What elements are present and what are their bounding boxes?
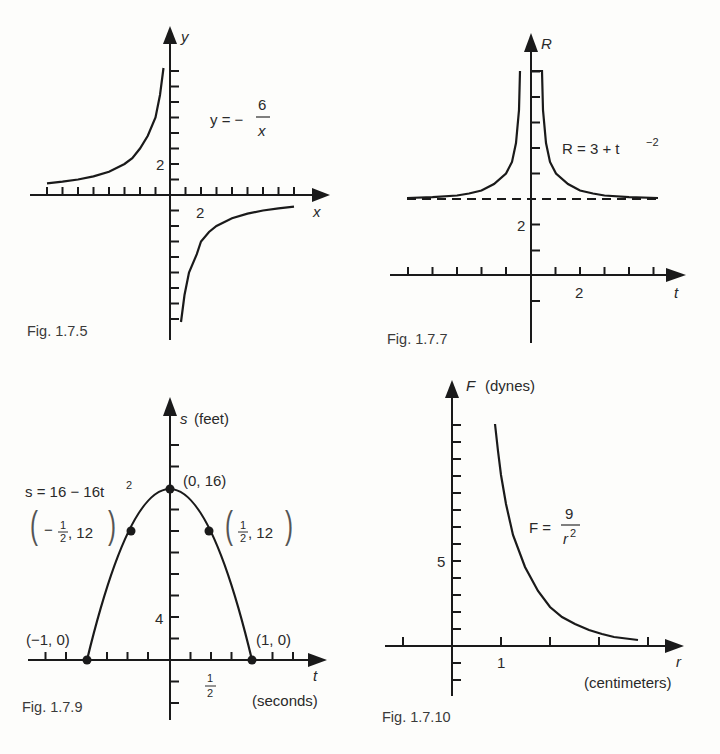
curve-branch-right	[181, 207, 294, 322]
s-axis-arrow-icon	[163, 397, 177, 416]
equation-label: s = 16 − 16t 2	[25, 479, 132, 500]
f-axis-label: F	[466, 377, 476, 394]
f-axis-unit: (dynes)	[485, 377, 535, 394]
figure-1-7-7: R t 2 2 R = 3 + t −2 Fig. 1.7.7	[387, 33, 686, 347]
svg-text:2: 2	[240, 532, 246, 544]
f-ticks	[452, 425, 461, 680]
r-axis-label: r	[676, 653, 682, 670]
figure-caption: Fig. 1.7.10	[382, 709, 451, 725]
point-neghalf-12	[127, 527, 136, 536]
svg-text:): )	[285, 503, 293, 546]
equation-numerator: 9	[565, 505, 573, 522]
t-axis-label: t	[313, 667, 318, 684]
x-axis-label: x	[312, 203, 321, 220]
svg-text:(: (	[30, 503, 38, 546]
equation-main: s = 16 − 16t	[25, 483, 105, 500]
svg-text:(: (	[225, 503, 233, 546]
svg-text:1: 1	[60, 519, 66, 531]
svg-text:2: 2	[60, 532, 66, 544]
y-axis-arrow-icon	[163, 26, 177, 44]
equation-lhs: y = −	[210, 111, 244, 128]
figure-sheet: y x 2 2 y = − 6 x Fig. 1.7.5	[0, 0, 720, 754]
point-half-12	[205, 527, 214, 536]
figure-1-7-9: s (feet) t (seconds) 4 1 2 s = 16 − 16t …	[22, 397, 327, 720]
r-axis-arrow-icon	[524, 33, 538, 52]
equation-exponent: 2	[126, 479, 132, 491]
figure-caption: Fig. 1.7.7	[387, 331, 447, 347]
curve-branch-left	[47, 68, 164, 183]
s-tick-label: 4	[155, 610, 163, 627]
r-axis-unit: (centimeters)	[584, 674, 672, 691]
svg-text:2: 2	[207, 687, 213, 699]
r-axis-arrow-icon	[665, 639, 684, 653]
figure-1-7-5: y x 2 2 y = − 6 x Fig. 1.7.5	[27, 26, 330, 340]
equation-denominator-exponent: 2	[570, 527, 576, 539]
svg-text:1: 1	[207, 672, 213, 684]
point-label-top: (0, 16)	[183, 472, 226, 489]
equation-label: y = − 6 x	[210, 96, 270, 139]
r-tick-label: 1	[497, 654, 505, 671]
equation-numerator: 6	[258, 96, 266, 113]
t-axis-unit: (seconds)	[252, 692, 318, 709]
r-tick-label: 2	[517, 217, 525, 234]
s-axis-unit: (feet)	[194, 410, 229, 427]
equation-main: R = 3 + t	[562, 140, 620, 157]
t-tick-label: 1 2	[205, 672, 216, 699]
equation-lhs: F =	[529, 519, 551, 536]
t-axis-arrow-icon	[308, 653, 327, 667]
svg-text:1: 1	[240, 519, 246, 531]
point-0-16	[166, 485, 175, 494]
svg-text:): )	[108, 503, 116, 546]
s-axis-label: s	[180, 410, 188, 427]
point-label-mid-left: ( − 1 2 , 12 )	[30, 503, 116, 546]
curve-branch-right	[532, 71, 658, 198]
f-axis-arrow-icon	[445, 380, 459, 398]
y-tick-label: 2	[156, 156, 164, 173]
equation-label: F = 9 r 2	[529, 505, 580, 547]
figure-1-7-10: F (dynes) r (centimeters) 5 1 F = 9 r 2 …	[382, 377, 684, 725]
point-neg1-0	[83, 656, 92, 665]
svg-text:, 12: , 12	[68, 524, 93, 541]
equation-exponent: −2	[646, 136, 659, 148]
point-1-0	[248, 656, 257, 665]
point-label-right: (1, 0)	[256, 631, 291, 648]
t-tick-label: 2	[575, 284, 583, 301]
y-axis-label: y	[180, 28, 190, 45]
equation-label: R = 3 + t −2	[562, 136, 659, 157]
figure-caption: Fig. 1.7.9	[22, 699, 82, 715]
t-axis-arrow-icon	[666, 268, 686, 282]
r-ticks	[531, 72, 540, 302]
point-label-left: (−1, 0)	[26, 631, 70, 648]
r-axis-label: R	[541, 35, 552, 52]
f-tick-label: 5	[437, 553, 445, 570]
r-ticks	[403, 637, 648, 646]
svg-text:−: −	[44, 521, 53, 538]
equation-denominator: x	[257, 122, 266, 139]
s-ticks	[170, 445, 179, 703]
x-tick-label: 2	[196, 204, 204, 221]
equation-denominator: r	[563, 530, 569, 547]
x-axis-arrow-icon	[312, 188, 330, 202]
t-axis-label: t	[674, 284, 679, 301]
figure-caption: Fig. 1.7.5	[27, 323, 87, 339]
svg-text:, 12: , 12	[248, 524, 273, 541]
curve-branch-left	[407, 71, 520, 198]
point-label-mid-right: ( 1 2 , 12 )	[225, 503, 293, 546]
